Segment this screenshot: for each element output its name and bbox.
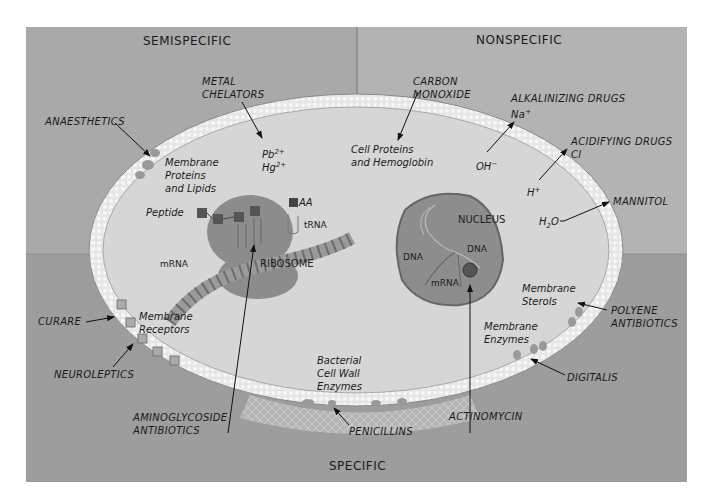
- label-penicillins: PENICILLINS: [349, 426, 413, 438]
- label-actinomycin: ACTINOMYCIN: [449, 411, 523, 423]
- target-membrane-sterols-1: Membrane: [522, 283, 576, 295]
- zone-nonspecific: NONSPECIFIC: [476, 33, 562, 47]
- label-acidifying-drugs: ACIDIFYING DRUGS: [571, 136, 673, 148]
- label-polyene-1: POLYENE: [611, 305, 658, 317]
- label-alkalinizing-ion: Na+: [511, 106, 531, 121]
- target-membrane-enzymes-2: Enzymes: [484, 334, 529, 346]
- structure-dna-left: DNA: [403, 252, 423, 262]
- structure-mrna-nucleus: mRNA: [431, 278, 459, 288]
- nucleolus: [463, 263, 477, 277]
- target-hydroxide: OH−: [476, 158, 497, 173]
- target-membrane-proteins-2: Proteins: [165, 170, 206, 182]
- structure-ribosome: RIBOSOME: [260, 258, 314, 269]
- label-aminoglycoside-2: ANTIBIOTICS: [133, 425, 200, 437]
- target-mercury-ion: Hg2+: [262, 159, 286, 174]
- target-cell-wall-2: Cell Wall: [317, 368, 360, 380]
- label-curare: CURARE: [38, 316, 81, 328]
- target-membrane-enzymes-1: Membrane: [484, 321, 538, 333]
- target-hydrogen-ion: H+: [527, 184, 540, 199]
- target-membrane-receptors-2: Receptors: [139, 324, 189, 336]
- label-carbon-monoxide-2: MONOXIDE: [413, 89, 471, 101]
- target-membrane-proteins-3: and Lipids: [165, 183, 216, 195]
- label-polyene-2: ANTIBIOTICS: [611, 318, 678, 330]
- label-acidifying-ion: Cl: [571, 149, 581, 161]
- label-metal-chelators-1: METAL: [202, 76, 236, 88]
- target-cell-wall-1: Bacterial: [317, 355, 361, 367]
- label-mannitol: MANNITOL: [613, 196, 668, 208]
- zone-specific: SPECIFIC: [329, 459, 386, 473]
- target-cell-proteins-2: and Hemoglobin: [351, 157, 433, 169]
- structure-amino-acid: AA: [299, 197, 313, 209]
- drug-target-diagram: SEMISPECIFIC NONSPECIFIC SPECIFIC ANAEST…: [0, 0, 711, 504]
- target-membrane-receptors-1: Membrane: [139, 311, 193, 323]
- label-aminoglycoside-1: AMINOGLYCOSIDE: [133, 412, 227, 424]
- structure-trna: tRNA: [304, 220, 327, 230]
- target-cell-proteins-1: Cell Proteins: [351, 144, 414, 156]
- target-cell-wall-3: Enzymes: [317, 381, 362, 393]
- structure-mrna: mRNA: [160, 259, 188, 269]
- target-membrane-proteins-1: Membrane: [165, 157, 219, 169]
- structure-peptide: Peptide: [146, 207, 184, 219]
- target-water: H2O: [539, 216, 559, 232]
- zone-semispecific: SEMISPECIFIC: [143, 34, 231, 48]
- label-neuroleptics: NEUROLEPTICS: [54, 369, 134, 381]
- label-alkalinizing-drugs: ALKALINIZING DRUGS: [511, 93, 625, 105]
- label-metal-chelators-2: CHELATORS: [202, 89, 264, 101]
- label-digitalis: DIGITALIS: [567, 372, 618, 384]
- target-membrane-sterols-2: Sterols: [522, 296, 557, 308]
- label-anaesthetics: ANAESTHETICS: [45, 116, 125, 128]
- structure-nucleus: NUCLEUS: [458, 214, 505, 225]
- structure-dna-right: DNA: [467, 244, 487, 254]
- label-carbon-monoxide-1: CARBON: [413, 76, 458, 88]
